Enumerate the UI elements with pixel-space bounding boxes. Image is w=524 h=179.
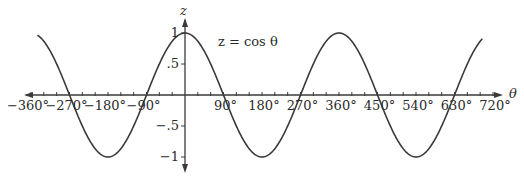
x-tick-label: 540° bbox=[402, 98, 433, 113]
z-tick-label: −1 bbox=[160, 149, 179, 164]
cosine-chart: −360°−270°−180°−90°90°180°270°360°450°54… bbox=[0, 0, 524, 179]
z-axis-down-arrow-icon bbox=[182, 164, 188, 173]
z-tick-label: .5 bbox=[167, 56, 179, 71]
z-axis-up-arrow-icon bbox=[182, 18, 188, 27]
x-tick-label: 720° bbox=[479, 98, 510, 113]
z-tick-label: 1 bbox=[171, 25, 179, 40]
x-tick-label: 180° bbox=[248, 98, 279, 113]
z-axis-label: z bbox=[179, 3, 187, 18]
x-tick-label: −90° bbox=[127, 98, 161, 113]
x-tick-label: 450° bbox=[364, 98, 395, 113]
x-tick-label: −360° bbox=[7, 98, 49, 113]
z-tick-label: −.5 bbox=[156, 118, 179, 133]
x-tick-label: 360° bbox=[325, 98, 356, 113]
equation-label: z = cos θ bbox=[218, 34, 278, 49]
x-tick-label: 270° bbox=[287, 98, 318, 113]
x-tick-label: 630° bbox=[441, 98, 472, 113]
x-tick-label: −180° bbox=[84, 98, 126, 113]
x-tick-label: −270° bbox=[45, 98, 87, 113]
x-tick-label: 90° bbox=[214, 98, 237, 113]
theta-axis-label: θ bbox=[509, 86, 517, 101]
